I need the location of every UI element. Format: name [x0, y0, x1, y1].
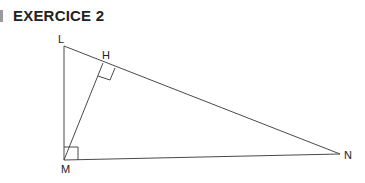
- label-M: M: [61, 163, 70, 175]
- label-H: H: [102, 49, 110, 61]
- label-N: N: [344, 149, 352, 161]
- label-L: L: [58, 33, 64, 45]
- segment-LN: [64, 46, 340, 154]
- triangle-diagram: L H M N: [0, 0, 365, 183]
- segment-MN: [64, 154, 340, 160]
- segment-MH: [64, 63, 103, 160]
